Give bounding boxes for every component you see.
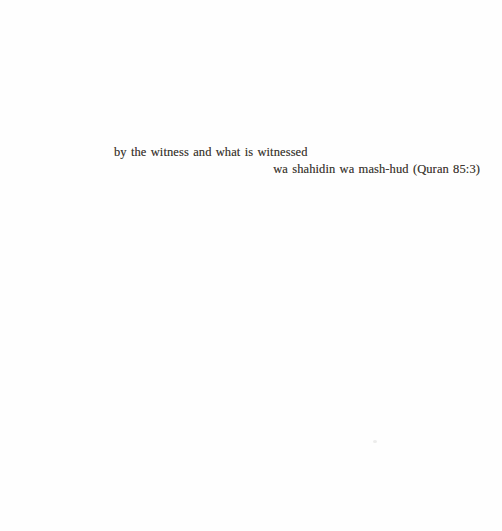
epigraph-attribution-line: wa shahidin wa mash-hud (Quran 85:3) (114, 161, 480, 178)
epigraph-block: by the witness and what is witnessed wa … (114, 144, 480, 178)
epigraph-verse-line: by the witness and what is witnessed (114, 144, 480, 161)
book-page: by the witness and what is witnessed wa … (0, 0, 502, 531)
scan-artifact-speck (373, 440, 377, 443)
